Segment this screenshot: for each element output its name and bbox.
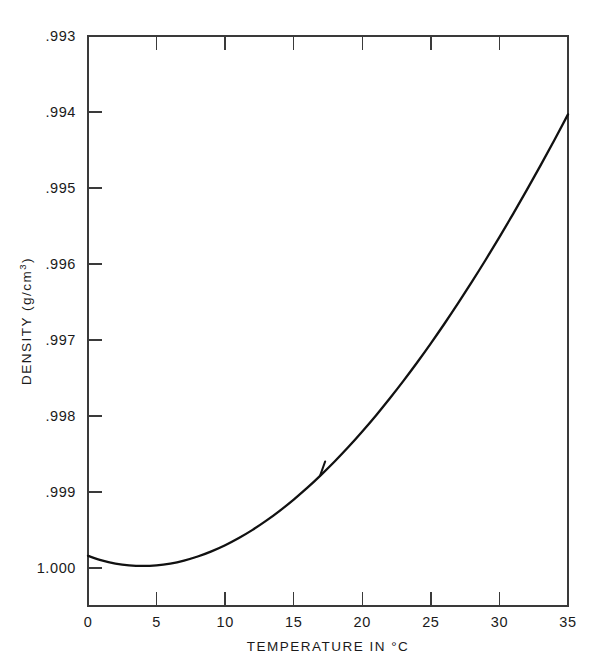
density-temperature-chart: 05101520253035 .993.994.995.996.997.998.… [0, 0, 606, 669]
y-tick-label-.996: .996 [45, 256, 76, 272]
y-tick-label-.997: .997 [45, 332, 76, 348]
x-tick-label-30: 30 [491, 614, 508, 630]
x-axis-title: TEMPERATURE IN °C [247, 639, 410, 654]
x-tick-label-10: 10 [216, 614, 233, 630]
x-tick-label-35: 35 [559, 614, 576, 630]
x-tick-label-0: 0 [84, 614, 93, 630]
x-tick-label-5: 5 [152, 614, 161, 630]
y-tick-label-.993: .993 [45, 28, 76, 44]
chart-canvas: 05101520253035 .993.994.995.996.997.998.… [0, 0, 606, 669]
x-tick-label-25: 25 [422, 614, 439, 630]
y-tick-label-.999: .999 [45, 484, 76, 500]
x-tick-label-15: 15 [285, 614, 302, 630]
y-tick-label-.998: .998 [45, 408, 76, 424]
y-tick-label-.995: .995 [45, 180, 76, 196]
y-tick-label-1.000: 1.000 [37, 560, 76, 576]
y-tick-label-.994: .994 [45, 104, 76, 120]
x-tick-label-20: 20 [354, 614, 371, 630]
y-axis-title: DENSITY (g/cm3) [17, 257, 34, 385]
